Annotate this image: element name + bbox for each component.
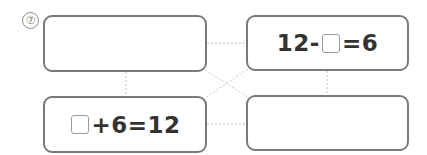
bottom-right-box[interactable] bbox=[246, 95, 409, 151]
problem-number: ⑦ bbox=[22, 12, 39, 29]
answer-blank[interactable] bbox=[322, 34, 340, 53]
bottom-left-box[interactable]: +6=12 bbox=[43, 96, 207, 153]
answer-blank[interactable] bbox=[71, 115, 89, 134]
top-right-equation: 12- =6 bbox=[277, 30, 378, 56]
top-left-box[interactable] bbox=[43, 15, 207, 72]
top-right-box[interactable]: 12- =6 bbox=[246, 15, 409, 71]
bottom-left-equation: +6=12 bbox=[69, 112, 180, 138]
